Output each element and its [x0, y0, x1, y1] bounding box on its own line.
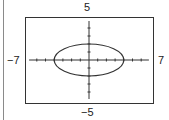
plot-area	[0, 0, 169, 120]
